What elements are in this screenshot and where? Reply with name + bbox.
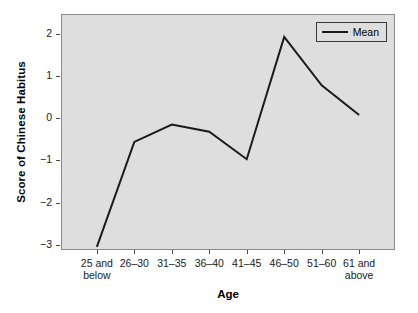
y-tick-label: 2 [26,27,52,39]
y-tick-label: 1 [26,69,52,81]
x-tick-mark [322,250,323,254]
x-tick-mark [134,250,135,254]
x-tick-mark [172,250,173,254]
y-tick-mark [56,76,60,77]
x-tick-mark [97,250,98,254]
y-tick-mark [56,203,60,204]
chart-figure: Score of Chinese Habitus Mean 210−1−2−3 … [0,0,418,313]
y-tick-label: −3 [26,238,52,250]
x-tick-mark [284,250,285,254]
y-tick-label: −2 [26,196,52,208]
y-tick-label: 0 [26,111,52,123]
x-tick-label: 61 and above [329,257,389,281]
legend-label-mean: Mean [353,26,379,38]
y-tick-label: −1 [26,153,52,165]
y-tick-mark [56,34,60,35]
x-axis-title: Age [61,288,395,300]
x-tick-mark [209,250,210,254]
plot-area: Mean [61,14,395,250]
legend-line-swatch [322,31,348,33]
x-tick-mark [247,250,248,254]
x-tick-mark [359,250,360,254]
y-tick-mark [56,245,60,246]
legend: Mean [316,22,387,42]
y-tick-mark [56,118,60,119]
y-tick-mark [56,160,60,161]
series-line-mean [62,15,394,249]
